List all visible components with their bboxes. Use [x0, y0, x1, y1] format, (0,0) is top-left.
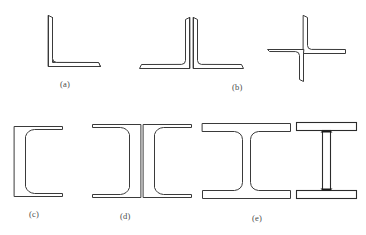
double-channel-section	[93, 125, 192, 198]
caption-b: (b)	[232, 82, 243, 92]
built-up-plate-girder	[297, 123, 357, 199]
structural-sections-figure: (a) (b) (c) (d) (e)	[0, 0, 366, 235]
double-angle-tee-section	[140, 18, 244, 69]
single-angle-section	[49, 16, 101, 67]
wide-flange-i-section	[203, 124, 291, 199]
cruciform-angle-section	[268, 16, 346, 82]
top-weld-fillet	[321, 131, 333, 133]
bottom-weld-fillet	[321, 189, 333, 191]
caption-d: (d)	[120, 211, 131, 221]
sections-drawing	[0, 0, 366, 235]
caption-c: (c)	[29, 209, 39, 219]
single-channel-section	[15, 127, 63, 197]
caption-e: (e)	[252, 213, 262, 223]
caption-a: (a)	[60, 79, 70, 89]
